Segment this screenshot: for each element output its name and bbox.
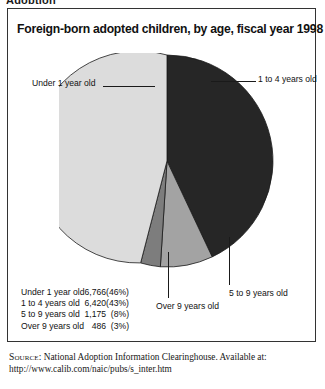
row-label: 1 to 4 years old [21, 298, 85, 309]
figure-box: Foreign-born adopted children, by age, f… [7, 8, 316, 342]
callout-label-under-1-year-old: Under 1 year old [32, 78, 96, 88]
cropped-page-heading: Adoption [6, 0, 126, 4]
row-value: 6,766 [85, 287, 107, 298]
row-value: 1,175 [85, 309, 107, 320]
row-percent: (46%) [106, 287, 129, 298]
figure-title: Foreign-born adopted children, by age, f… [17, 22, 309, 36]
row-percent: (43%) [106, 298, 129, 309]
source-url: http://www.calib.com/naic/pubs/s_inter.h… [9, 364, 172, 374]
source-note: Source: National Adoption Information Cl… [9, 351, 317, 375]
table-row: Over 9 years old 486 (3%) [21, 321, 129, 332]
row-label: 5 to 9 years old [21, 309, 85, 320]
leader-line-over-9-years-old [168, 252, 169, 298]
callout-label-over-9-years-old: Over 9 years old [156, 301, 219, 311]
leader-line-5-to-9-years-old [229, 237, 230, 285]
leader-line-1-to-4-years-old [211, 81, 256, 82]
row-value: 6,420 [85, 298, 107, 309]
row-label: Over 9 years old [21, 321, 85, 332]
leader-line-under-1-year-old [103, 86, 155, 87]
source-text: National Adoption Information Clearingho… [41, 352, 266, 362]
data-table: Under 1 year old 6,766 (46%) 1 to 4 year… [21, 287, 129, 332]
table-row: 5 to 9 years old 1,175 (8%) [21, 309, 129, 320]
callout-label-5-to-9-years-old: 5 to 9 years old [229, 288, 288, 298]
row-percent: (8%) [106, 309, 129, 320]
source-kicker: Source: [9, 351, 41, 362]
table-row: 1 to 4 years old 6,420 (43%) [21, 298, 129, 309]
row-percent: (3%) [106, 321, 129, 332]
table-row: Under 1 year old 6,766 (46%) [21, 287, 129, 298]
row-label: Under 1 year old [21, 287, 85, 298]
row-value: 486 [85, 321, 107, 332]
callout-label-1-to-4-years-old: 1 to 4 years old [258, 74, 317, 84]
